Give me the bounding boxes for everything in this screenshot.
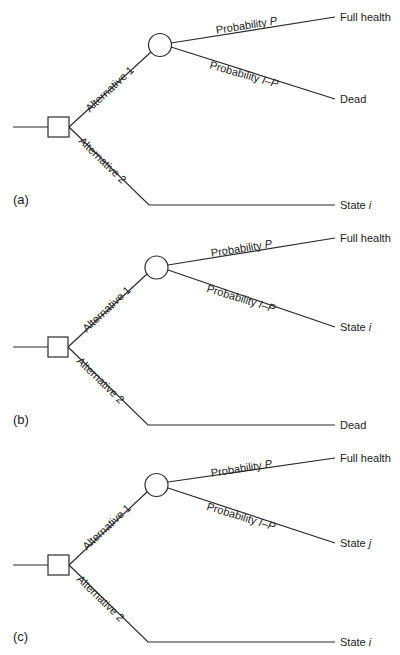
outcome-state-i: State i [340, 636, 372, 648]
probability-q-label: Probability I–P [205, 282, 277, 314]
probability-q-label: Probability I–P [205, 500, 277, 532]
probability-p-label: Probability P [215, 14, 279, 36]
decision-node [48, 555, 69, 575]
panel-c: Alternative 1 Alternative 2 Probability … [13, 452, 391, 648]
chance-node [145, 474, 168, 497]
probability-p-label: Probability P [210, 237, 274, 259]
alternative-2-label: Alternative 2 [77, 135, 129, 186]
chance-node [145, 256, 168, 279]
outcome-state-i: State i [340, 199, 372, 211]
panel-a: Alternative 1 Alternative 2 Probability … [13, 11, 391, 211]
outcome-state-j: State j [340, 537, 372, 549]
alternative-1-label: Alternative 1 [83, 64, 136, 114]
chance-node [149, 34, 172, 57]
panel-b: Alternative 1 Alternative 2 Probability … [13, 232, 391, 431]
decision-node [48, 117, 69, 137]
outcome-full-health: Full health [340, 452, 391, 464]
decision-node [48, 337, 68, 357]
outcome-state-i: State i [340, 321, 372, 333]
panel-tag-a: (a) [13, 192, 29, 207]
alternative-2-label: Alternative 2 [75, 573, 127, 624]
panel-tag-b: (b) [13, 412, 29, 427]
probability-p-label: Probability P [210, 457, 274, 479]
outcome-dead: Dead [340, 93, 366, 105]
outcome-dead: Dead [340, 419, 366, 431]
outcome-full-health: Full health [340, 11, 391, 23]
alternative-1-label: Alternative 1 [80, 284, 133, 334]
alternative-1-label: Alternative 1 [80, 502, 133, 552]
probability-q-label: Probability I–P [208, 59, 280, 90]
alternative-2-label: Alternative 2 [75, 355, 127, 406]
panel-tag-c: (c) [13, 629, 28, 644]
outcome-full-health: Full health [340, 232, 391, 244]
decision-tree-figure: Alternative 1 Alternative 2 Probability … [0, 0, 400, 655]
